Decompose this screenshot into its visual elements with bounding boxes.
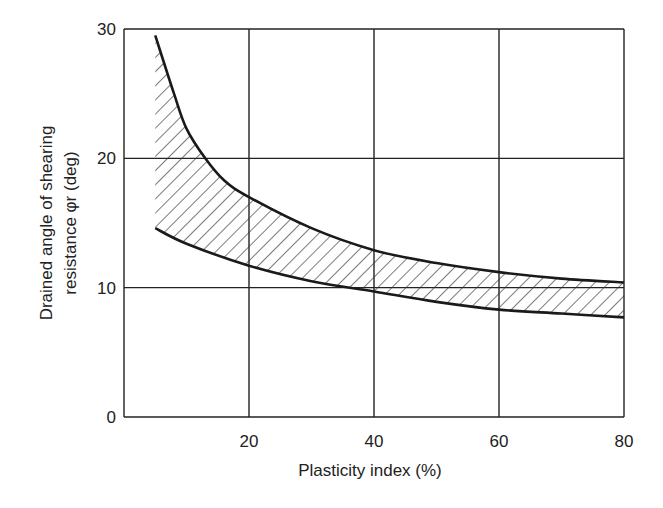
y-tick-10: 10 xyxy=(97,279,116,298)
hatched-band xyxy=(155,35,624,317)
y-tick-30: 30 xyxy=(97,20,116,39)
x-tick-40: 40 xyxy=(365,432,384,451)
x-tick-60: 60 xyxy=(490,432,509,451)
y-axis-label-line2: resistance φr (deg) xyxy=(61,151,80,294)
x-tick-80: 80 xyxy=(615,432,634,451)
y-axis-label-line1: Drained angle of shearing xyxy=(37,126,56,321)
x-tick-20: 20 xyxy=(240,432,259,451)
y-tick-20: 20 xyxy=(97,149,116,168)
y-tick-0: 0 xyxy=(107,408,116,427)
chart: 204060800102030 Plasticity index (%) Dra… xyxy=(0,0,663,508)
x-axis-label: Plasticity index (%) xyxy=(298,461,442,480)
